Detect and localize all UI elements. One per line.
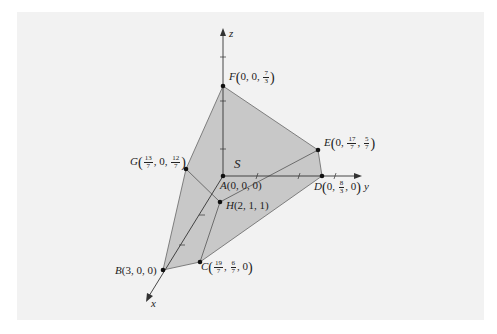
region-label: S (234, 157, 241, 170)
label-g: G(137, 0, 127) (130, 155, 186, 170)
point-h (218, 200, 223, 205)
y-axis-arrow-icon (354, 173, 362, 179)
z-axis-label: z (229, 27, 233, 39)
polyhedron-diagram (0, 0, 497, 334)
point-b (161, 268, 166, 273)
label-d: D(0, 83, 0) (314, 180, 361, 195)
x-axis-label: x (151, 297, 156, 309)
label-h: H(2, 1, 1) (226, 200, 269, 211)
label-b: B(3, 0, 0) (115, 265, 157, 276)
label-a: A(0, 0, 0) (220, 180, 262, 191)
label-f: F(0, 0, 73) (229, 70, 275, 85)
y-axis-label: y (364, 180, 369, 192)
label-c: C(197, 67, 0) (201, 260, 253, 275)
point-f (221, 84, 226, 89)
z-axis-arrow-icon (220, 28, 226, 36)
label-e: E(0, 177, 57) (324, 136, 375, 151)
point-d (320, 174, 325, 179)
point-e (316, 148, 321, 153)
point-a (221, 174, 226, 179)
